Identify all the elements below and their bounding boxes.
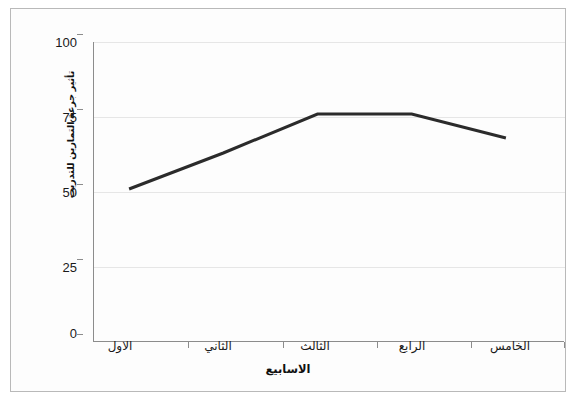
- x-axis-title: الاسابيع: [0, 362, 576, 376]
- y-tick-mark-0: [77, 334, 83, 335]
- y-tick-mark-50: [77, 184, 83, 185]
- gridline-25: [94, 267, 565, 268]
- y-tick-label-0: 0: [37, 327, 77, 340]
- figure-frame: تأثير جرعة التمارين للتدريب 100 75 50 25…: [10, 8, 566, 392]
- x-tick-label-2: الثاني: [178, 340, 258, 353]
- y-tick-label-75: 75: [37, 111, 77, 124]
- x-tick-label-3: الثالث: [275, 340, 355, 353]
- plot-area: [93, 42, 564, 342]
- y-axis-title: تأثير جرعة التمارين للتدريب: [65, 70, 76, 200]
- gridline-50: [94, 192, 565, 193]
- y-tick-mark-100: [77, 34, 83, 35]
- gridline-75: [94, 117, 565, 118]
- y-tick-label-50: 50: [37, 186, 77, 199]
- y-tick-label-25: 25: [37, 261, 77, 274]
- y-tick-mark-25: [77, 259, 83, 260]
- x-tick-label-1: الاول: [80, 340, 160, 353]
- x-tick-label-5: الخامس: [470, 340, 550, 353]
- y-tick-mark-75: [77, 109, 83, 110]
- gridline-100: [94, 42, 565, 43]
- x-tick-label-4: الرابع: [372, 340, 452, 353]
- x-tick-mark-5: [564, 342, 565, 348]
- y-tick-label-100: 100: [37, 36, 77, 49]
